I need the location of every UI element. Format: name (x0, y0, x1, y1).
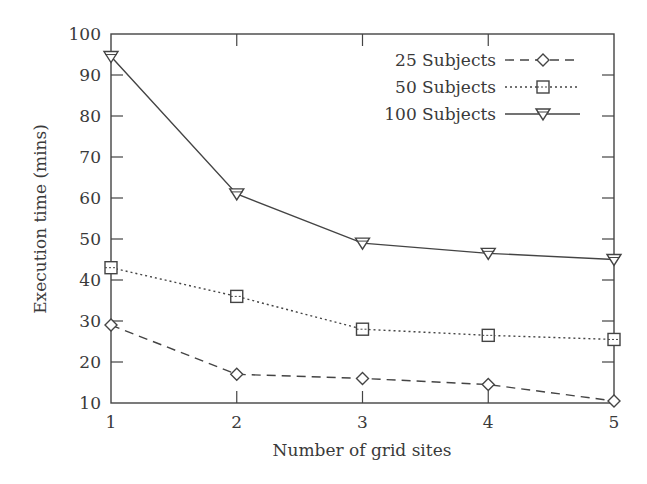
x-tick-label: 1 (106, 412, 117, 432)
legend-item: 50 Subjects (395, 77, 580, 97)
y-tick-label: 80 (79, 106, 101, 126)
x-tick-label: 2 (231, 412, 242, 432)
y-tick-label: 10 (79, 393, 101, 413)
legend-item: 25 Subjects (395, 50, 580, 70)
y-tick-label: 70 (79, 147, 101, 167)
x-tick-label: 4 (483, 412, 494, 432)
legend-label: 25 Subjects (395, 50, 496, 70)
x-axis-title: Number of grid sites (273, 440, 452, 460)
triangle-down-marker-icon (230, 189, 244, 200)
triangle-down-marker-icon (607, 255, 621, 266)
diamond-marker-icon (482, 379, 494, 391)
y-axis-title: Execution time (mins) (30, 124, 50, 314)
diamond-marker-icon (231, 368, 243, 380)
legend-item: 100 Subjects (384, 104, 580, 124)
y-tick-label: 90 (79, 65, 101, 85)
line-chart: 102030405060708090100 12345 25 Subjects5… (0, 0, 647, 484)
series-lines (104, 52, 621, 407)
y-tick-label: 100 (69, 24, 101, 44)
y-axis: 102030405060708090100 (69, 24, 614, 413)
y-tick-label: 40 (79, 270, 101, 290)
x-tick-label: 5 (609, 412, 620, 432)
y-tick-label: 30 (79, 311, 101, 331)
diamond-marker-icon (608, 395, 620, 407)
y-tick-label: 20 (79, 352, 101, 372)
y-tick-label: 50 (79, 229, 101, 249)
series-50-subjects (105, 262, 620, 346)
diamond-marker-icon (357, 372, 369, 384)
legend-label: 100 Subjects (384, 104, 496, 124)
legend-label: 50 Subjects (395, 77, 496, 97)
y-tick-label: 60 (79, 188, 101, 208)
legend: 25 Subjects50 Subjects100 Subjects (384, 50, 580, 124)
x-tick-label: 3 (357, 412, 368, 432)
diamond-marker-icon (537, 54, 549, 66)
